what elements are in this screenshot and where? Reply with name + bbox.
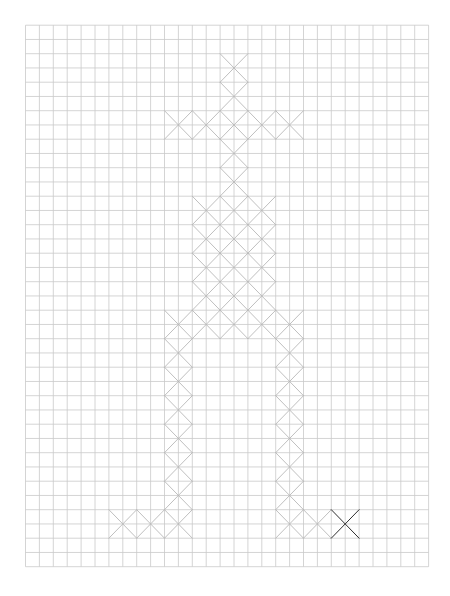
- grid-lines: [26, 25, 429, 567]
- cross-stitch-grid-canvas[interactable]: [0, 0, 450, 596]
